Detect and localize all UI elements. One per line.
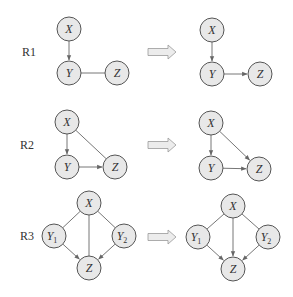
edge-x-y1-undirected	[63, 211, 81, 228]
node-z: Z	[247, 157, 271, 181]
node-y: Y	[199, 156, 223, 180]
node-y1: Y1	[186, 225, 210, 249]
node-label: Z	[256, 162, 263, 176]
node-subscript: 1	[197, 237, 201, 246]
node-y1: Y1	[42, 224, 66, 248]
node-x: X	[55, 110, 79, 134]
node-label: X	[206, 116, 215, 130]
node-label: X	[228, 199, 237, 213]
node-label: X	[207, 23, 216, 37]
graph-after: XYZ	[199, 111, 271, 181]
transform-arrow-icon	[148, 138, 176, 152]
rule-label-r1: R1	[22, 45, 36, 59]
graph-before: XY1Y2Z	[42, 191, 136, 280]
node-label: Z	[86, 261, 93, 275]
diagram-canvas: R1XYZXYZR2XYZXYZR3XY1Y2ZXY1Y2Z	[0, 0, 293, 297]
edge-y1-z-directed	[207, 245, 224, 260]
edge-x-z-undirected	[76, 130, 106, 159]
node-z: Z	[105, 61, 129, 85]
node-x: X	[57, 17, 81, 41]
transform-arrow-icon	[148, 230, 176, 244]
node-subscript: 2	[123, 236, 127, 245]
node-x: X	[199, 111, 223, 135]
graph-after: XY1Y2Z	[186, 194, 280, 281]
transform-arrow-icon	[148, 45, 176, 59]
edge-x-z-directed	[220, 131, 250, 160]
node-subscript: 1	[53, 236, 57, 245]
node-z: Z	[221, 257, 245, 281]
node-label: X	[64, 22, 73, 36]
node-label: Z	[257, 67, 264, 81]
node-x: X	[200, 18, 224, 42]
node-z: Z	[103, 155, 127, 179]
node-label: X	[62, 115, 71, 129]
edge-y2-z-directed	[99, 244, 116, 259]
node-y: Y	[57, 61, 81, 85]
graph-after: XYZ	[200, 18, 272, 86]
edge-y2-z-directed	[243, 245, 260, 260]
node-y: Y	[55, 155, 79, 179]
graph-before: XYZ	[55, 110, 127, 179]
edge-x-y2-undirected	[98, 211, 116, 228]
rule-label-r2: R2	[20, 138, 34, 152]
graph-before: XYZ	[57, 17, 129, 85]
node-z: Z	[248, 62, 272, 86]
node-y2: Y2	[112, 224, 136, 248]
node-label: Z	[230, 262, 237, 276]
edge-y1-z-directed	[63, 244, 80, 259]
node-z: Z	[77, 256, 101, 280]
node-y2: Y2	[256, 225, 280, 249]
node-x: X	[221, 194, 245, 218]
edge-x-y2-undirected	[242, 214, 259, 229]
node-label: Z	[112, 160, 119, 174]
node-y: Y	[200, 62, 224, 86]
rule-label-r3: R3	[20, 229, 34, 243]
node-subscript: 2	[267, 237, 271, 246]
node-label: Z	[114, 66, 121, 80]
node-x: X	[77, 191, 101, 215]
node-label: X	[84, 196, 93, 210]
edge-x-y1-undirected	[207, 214, 224, 229]
